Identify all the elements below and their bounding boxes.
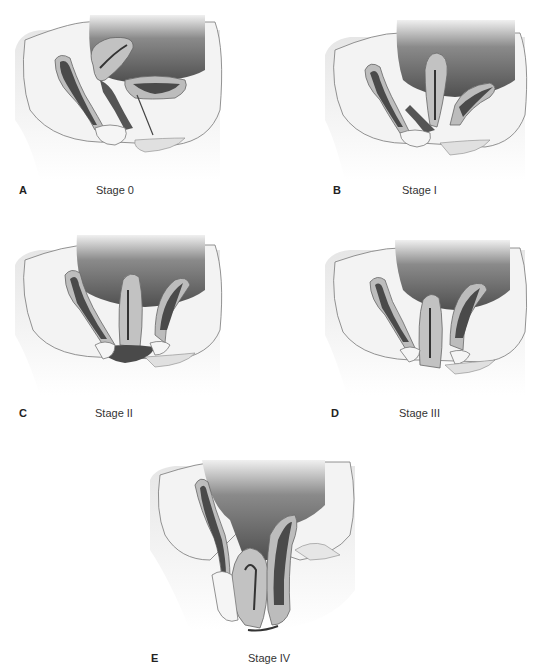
panel-letter: E <box>151 652 158 664</box>
panel-stage-label: Stage III <box>399 407 440 419</box>
panel-stage-label: Stage II <box>95 407 133 419</box>
panel-stage-label: Stage I <box>402 184 437 196</box>
panel-stage-label: Stage 0 <box>96 184 134 196</box>
panel-e <box>150 460 370 635</box>
pelvis-stage-4-illustration <box>150 460 370 635</box>
panel-b <box>325 15 535 180</box>
pelvis-stage-3-illustration <box>325 240 535 395</box>
panel-a <box>15 10 235 180</box>
pelvis-stage-2-illustration <box>15 235 235 395</box>
panel-d <box>325 240 535 395</box>
panel-letter: B <box>333 184 341 196</box>
panel-c <box>15 235 235 395</box>
pelvis-stage-0-illustration <box>15 10 235 180</box>
panel-stage-label: Stage IV <box>248 652 290 664</box>
panel-letter: A <box>19 184 27 196</box>
pelvis-stage-1-illustration <box>325 15 535 180</box>
panel-letter: C <box>19 407 27 419</box>
panel-letter: D <box>331 407 339 419</box>
